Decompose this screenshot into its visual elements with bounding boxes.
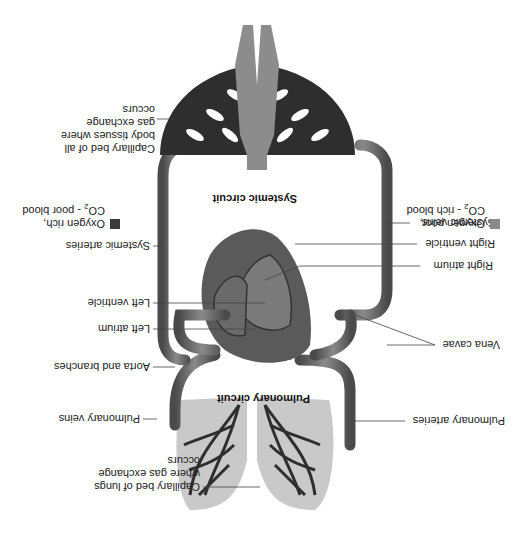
legend-oxygen-rich-line1: Oxygen rich,	[22, 217, 105, 230]
swatch-oxygen-rich	[110, 219, 120, 229]
label-vena-cavae: Vena cavae	[443, 338, 501, 351]
heart	[202, 229, 311, 362]
label-systemic-arteries: Systemic arteries	[66, 239, 150, 252]
legend-oxygen-rich: Oxygen rich, CO2 - poor blood	[22, 200, 120, 230]
label-capillary-lungs: Capillary bed of lungs where gas exchang…	[65, 454, 200, 493]
pulmonary-circuit-title: Pulmonary circuit	[217, 393, 310, 405]
systemic-circuit-title: Systemic circuit	[213, 193, 297, 205]
label-left-atrium: Left atrium	[98, 322, 150, 335]
swatch-oxygen-poor	[490, 219, 500, 229]
label-left-ventricle: Left ventricle	[88, 296, 150, 309]
label-right-ventricle: Right ventricle	[425, 237, 495, 250]
label-right-atrium: Right atrium	[434, 259, 493, 272]
label-pulmonary-arteries: Pulmonary arteries	[413, 414, 505, 427]
legend-oxygen-poor-line2: CO2 - rich blood	[407, 200, 485, 217]
label-aorta: Aorta and branches	[54, 360, 150, 373]
circulatory-diagram: Pulmonary circuit Systemic circuit Capil…	[0, 0, 515, 555]
legend-oxygen-rich-line2: CO2 - poor blood	[22, 200, 105, 217]
legend-oxygen-poor-line1: Oxygen poor,	[407, 217, 485, 230]
legend-oxygen-poor: Oxygen poor, CO2 - rich blood	[407, 200, 500, 230]
label-capillary-body: Capillary bed of all body tissues where …	[55, 103, 155, 155]
body-capillary-bed	[160, 25, 355, 170]
label-pulmonary-veins: Pulmonary veins	[59, 412, 140, 425]
